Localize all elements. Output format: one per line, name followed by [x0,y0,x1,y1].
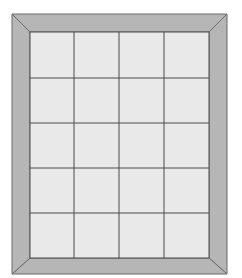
frame-right [209,14,227,274]
frame-left [12,14,30,274]
framed-grid-diagram [0,0,242,278]
frame-bottom [12,258,227,274]
frame-top [12,14,227,32]
